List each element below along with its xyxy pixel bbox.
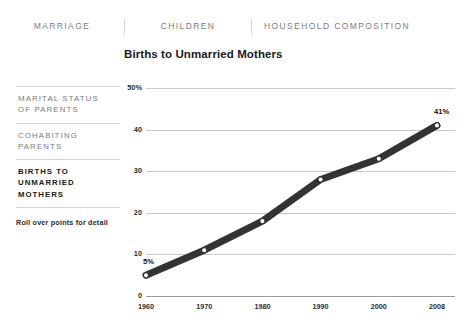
series-line [146,125,437,275]
data-point-marker[interactable] [260,219,265,224]
line-chart: 01020304050% 196019701980199020002008 5%… [0,0,468,319]
data-point-marker[interactable] [434,123,439,128]
data-point-label: 5% [143,257,154,266]
data-point-marker[interactable] [202,248,207,253]
chart-plot-area [0,0,468,319]
data-point-marker[interactable] [376,156,381,161]
data-point-marker[interactable] [143,273,148,278]
data-point-marker[interactable] [318,177,323,182]
data-point-label: 41% [434,107,449,116]
